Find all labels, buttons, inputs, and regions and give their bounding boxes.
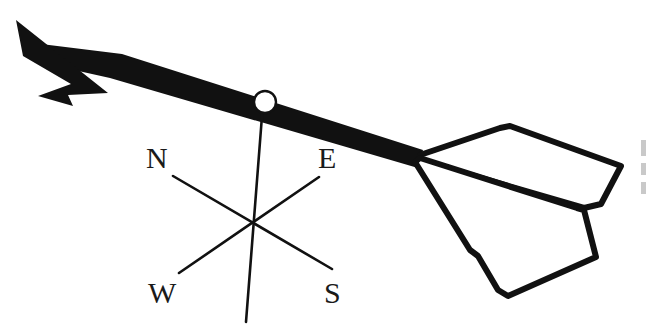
cut-text-fragment-bottom (641, 182, 646, 194)
compass-label-west: W (148, 276, 177, 309)
compass-label-north: N (146, 141, 168, 174)
weather-vane-drawing: N E W S (0, 0, 649, 328)
cut-text-fragment-middle (641, 163, 646, 175)
compass-label-east: E (318, 141, 336, 174)
weather-vane-figure: N E W S (0, 0, 649, 328)
pivot-point-circle (254, 91, 276, 113)
compass-label-south: S (324, 276, 341, 309)
cut-text-fragment-top (641, 140, 646, 156)
page-edge-artifacts (641, 140, 646, 194)
